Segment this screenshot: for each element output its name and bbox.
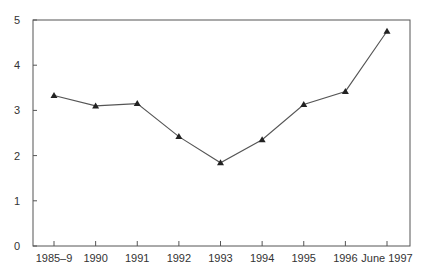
- y-tick-label: 5: [14, 14, 20, 26]
- y-tick-label: 0: [14, 240, 20, 252]
- y-tick-label: 2: [14, 150, 20, 162]
- y-tick-label: 4: [14, 59, 20, 71]
- series-line: [54, 31, 387, 163]
- x-tick-label: 1991: [125, 252, 149, 264]
- x-tick-label: 1990: [83, 252, 107, 264]
- triangle-marker-icon: [217, 159, 224, 165]
- x-tick-label: June 1997: [361, 252, 412, 264]
- triangle-marker-icon: [51, 92, 58, 98]
- y-axis: 012345: [14, 14, 37, 252]
- plot-frame: [33, 20, 410, 246]
- triangle-marker-icon: [134, 100, 141, 106]
- x-tick-label: 1994: [250, 252, 274, 264]
- y-tick-label: 3: [14, 104, 20, 116]
- x-tick-label: 1992: [167, 252, 191, 264]
- line-chart: 012345 1985–9199019911992199319941995199…: [0, 0, 430, 277]
- x-tick-label: 1993: [208, 252, 232, 264]
- y-tick-label: 1: [14, 195, 20, 207]
- x-tick-label: 1995: [292, 252, 316, 264]
- triangle-marker-icon: [384, 28, 391, 34]
- x-tick-label: 1985–9: [36, 252, 73, 264]
- data-series: [51, 28, 391, 166]
- plot-border: [33, 20, 410, 246]
- x-tick-label: 1996: [333, 252, 357, 264]
- x-axis: 1985–91990199119921993199419951996June 1…: [36, 241, 413, 264]
